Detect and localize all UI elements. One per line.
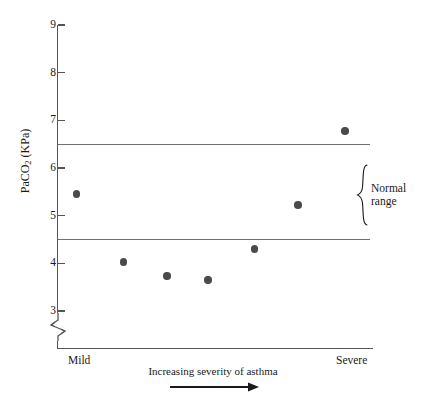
y-axis-tick xyxy=(58,72,65,73)
x-axis-title: Increasing severity of asthma xyxy=(0,366,426,377)
data-point xyxy=(120,258,128,266)
y-axis-tick-label: 6 xyxy=(36,162,56,174)
y-axis-tick xyxy=(58,120,65,121)
y-axis-tick xyxy=(58,263,65,264)
y-axis-tick-label: 9 xyxy=(36,19,56,31)
y-axis-title-subscript: 2 xyxy=(23,160,33,164)
data-point xyxy=(163,272,171,280)
y-axis-line-upper xyxy=(57,25,58,319)
chart-container: PaCO2 (KPa) 9876543 Normal range Mild Se… xyxy=(0,0,426,401)
right-arrow-icon xyxy=(0,381,426,393)
y-axis-tick-label: 8 xyxy=(36,67,56,79)
normal-range-line-upper xyxy=(58,144,370,145)
data-point xyxy=(204,276,212,284)
x-axis-label-mild: Mild xyxy=(68,355,90,367)
normal-range-line-lower xyxy=(58,239,370,240)
normal-range-label-line2: range xyxy=(371,195,397,207)
normal-range-annotation: Normal range xyxy=(356,164,406,226)
x-axis-line xyxy=(57,348,373,349)
y-axis-title-units: (KPa) xyxy=(18,129,32,161)
data-point xyxy=(294,201,302,209)
y-axis-tick xyxy=(58,24,65,25)
axis-break-icon xyxy=(47,313,69,341)
y-axis-title-main: PaCO xyxy=(18,165,32,194)
normal-range-label-line1: Normal xyxy=(371,182,406,194)
y-axis-tick xyxy=(58,215,65,216)
x-axis-label-severe: Severe xyxy=(336,355,367,367)
y-axis-title: PaCO2 (KPa) xyxy=(19,96,31,226)
y-axis-tick-label: 5 xyxy=(36,210,56,222)
y-axis-tick-label: 4 xyxy=(36,257,56,269)
curly-brace-icon xyxy=(356,164,369,226)
y-axis-tick xyxy=(58,167,65,168)
y-axis-tick-label: 7 xyxy=(36,114,56,126)
data-point xyxy=(73,190,81,198)
y-axis-tick-label: 3 xyxy=(36,305,56,317)
y-axis-tick xyxy=(58,310,65,311)
data-point xyxy=(251,245,259,253)
data-point xyxy=(341,127,349,135)
normal-range-label: Normal range xyxy=(371,182,406,208)
